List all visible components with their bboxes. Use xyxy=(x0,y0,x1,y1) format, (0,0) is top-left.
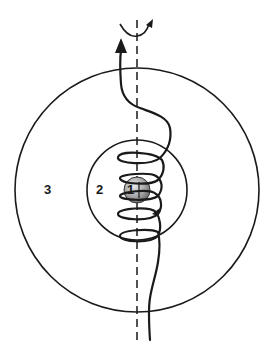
diagram-svg xyxy=(0,0,273,356)
region-label-1: 1 xyxy=(127,182,134,197)
trajectory-arrowhead-icon xyxy=(115,38,127,53)
region-label-3: 3 xyxy=(44,182,51,197)
region-label-2: 2 xyxy=(96,182,103,197)
rotation-arrow-icon xyxy=(120,24,149,36)
diagram-canvas: 3 2 1 xyxy=(0,0,273,356)
rotation-arrowhead-icon xyxy=(146,19,153,28)
